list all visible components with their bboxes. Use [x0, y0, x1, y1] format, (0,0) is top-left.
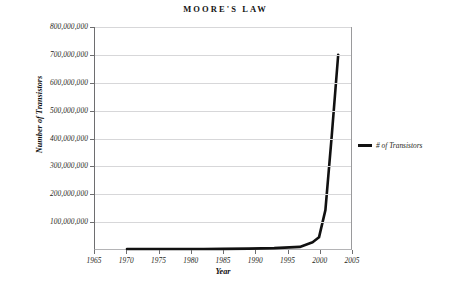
y-axis-tick	[90, 139, 94, 140]
x-axis-tick	[288, 250, 289, 254]
x-axis-tick	[223, 250, 224, 254]
legend-item-label: # of Transistors	[376, 141, 422, 150]
y-axis-tick	[90, 27, 94, 28]
y-axis-tick-label: 600,000,000	[4, 78, 88, 87]
y-axis-tick-label: 500,000,000	[4, 106, 88, 115]
gridline	[95, 166, 351, 167]
y-axis-tick-label: 800,000,000	[4, 22, 88, 31]
transistor-count-line	[127, 55, 338, 249]
y-axis-tick-labels: 800,000,000700,000,000600,000,000500,000…	[0, 0, 88, 293]
y-axis-tick	[90, 166, 94, 167]
x-axis-tick	[126, 250, 127, 254]
gridline	[95, 194, 351, 195]
x-axis-tick	[159, 250, 160, 254]
chart-legend: # of Transistors	[358, 141, 422, 150]
y-axis-tick-label: 700,000,000	[4, 50, 88, 59]
x-axis-tick	[352, 250, 353, 254]
y-axis-tick	[90, 222, 94, 223]
plot-area	[94, 27, 352, 250]
y-axis-tick-label: 400,000,000	[4, 134, 88, 143]
y-axis-tick	[90, 83, 94, 84]
x-axis-tick	[94, 250, 95, 254]
x-axis-title: Year	[94, 267, 352, 276]
gridline	[95, 83, 351, 84]
y-axis-tick-label: 100,000,000	[4, 217, 88, 226]
x-axis-tick	[320, 250, 321, 254]
x-axis-tick-label: 2005	[332, 256, 372, 265]
y-axis-tick-label: 300,000,000	[4, 161, 88, 170]
y-axis-tick-label: 200,000,000	[4, 189, 88, 198]
gridline	[95, 222, 351, 223]
y-axis-tick	[90, 194, 94, 195]
gridline	[95, 27, 351, 28]
gridline	[95, 55, 351, 56]
gridline	[95, 139, 351, 140]
y-axis-title: Number of Transistors	[35, 45, 44, 185]
moores-law-chart: MOORE'S LAW 800,000,000700,000,000600,00…	[0, 0, 451, 293]
x-axis-tick	[255, 250, 256, 254]
x-axis-tick	[191, 250, 192, 254]
y-axis-tick	[90, 55, 94, 56]
legend-line-swatch	[358, 144, 372, 147]
gridline	[95, 111, 351, 112]
y-axis-tick	[90, 111, 94, 112]
